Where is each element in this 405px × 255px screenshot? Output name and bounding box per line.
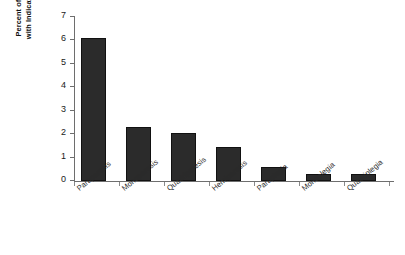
y-axis-tick: 4 [70, 86, 74, 87]
y-axis-tick-label: 4 [61, 80, 66, 91]
y-axis-tick-label: 6 [61, 33, 66, 44]
bar-chart-figure: Percent of Total Sample with Indicated S… [0, 0, 405, 255]
y-axis-tick-label: 1 [61, 151, 66, 162]
y-axis-tick-label: 3 [61, 104, 66, 115]
y-axis-tick: 1 [70, 157, 74, 158]
y-axis-tick: 6 [70, 39, 74, 40]
y-axis-title-line-2: with Indicated Symptoms [24, 0, 34, 64]
plot-area: 01234567 [74, 17, 392, 181]
y-axis-tick-label: 0 [61, 174, 66, 185]
y-axis-tick: 2 [70, 133, 74, 134]
x-axis-tick [389, 182, 390, 186]
bar [81, 38, 106, 181]
y-axis-tick: 3 [70, 110, 74, 111]
x-axis-line [74, 181, 394, 182]
y-axis-title-line-1: Percent of Total Sample [14, 0, 24, 64]
y-axis-title: Percent of Total Sample with Indicated S… [14, 0, 42, 64]
y-axis-tick: 0 [70, 180, 74, 181]
y-axis-tick-label: 5 [61, 57, 66, 68]
y-axis-tick-label: 2 [61, 127, 66, 138]
y-axis-tick: 7 [70, 16, 74, 17]
y-axis-tick: 5 [70, 63, 74, 64]
y-axis-tick-label: 7 [61, 10, 66, 21]
